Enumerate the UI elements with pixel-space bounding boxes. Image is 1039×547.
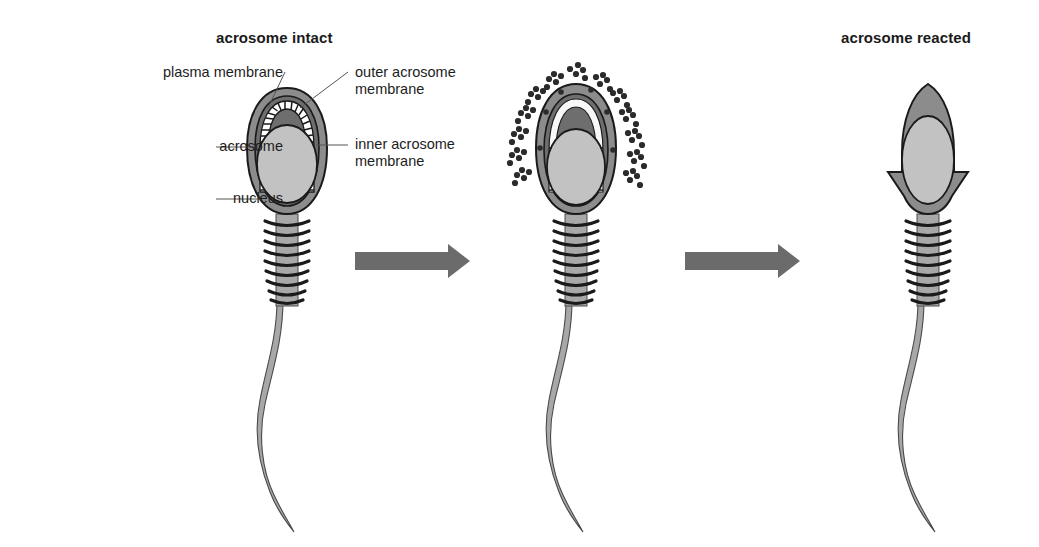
arrow-2	[685, 244, 800, 278]
label-outer-acrosome-membrane-line1: outer acrosome	[355, 64, 535, 81]
flagellum-reacting	[546, 300, 583, 532]
flagellum-intact	[257, 300, 294, 532]
nucleus-reacted	[902, 116, 954, 204]
caption-acrosome-intact: acrosome intact	[216, 29, 333, 46]
label-inner-acrosome-membrane-line2: membrane	[355, 153, 535, 170]
nucleus-reacting	[547, 129, 605, 205]
sperm-reacted	[888, 84, 968, 532]
label-outer-acrosome-membrane-line2: membrane	[355, 81, 535, 98]
arrow-1	[355, 244, 470, 278]
midpiece-core-reacted	[917, 214, 939, 306]
label-outer-acrosome-membrane: outer acrosome membrane	[355, 64, 535, 98]
sperm-reacting	[507, 62, 647, 532]
flagellum-reacted	[898, 300, 935, 532]
label-nucleus: nucleus	[58, 190, 283, 207]
label-inner-acrosome-membrane-line1: inner acrosome	[355, 136, 535, 153]
midpiece-core-intact	[276, 214, 298, 306]
label-acrosome: acrosome	[58, 138, 283, 155]
label-inner-acrosome-membrane: inner acrosome membrane	[355, 136, 535, 170]
caption-acrosome-reacted: acrosome reacted	[841, 29, 971, 46]
leader-outer-acrosome-membrane	[300, 72, 348, 108]
label-plasma-membrane: plasma membrane	[58, 64, 283, 81]
midpiece-core-reacting	[565, 214, 587, 306]
diagram-canvas: acrosome intact acrosome reacted plasma …	[0, 0, 1039, 547]
